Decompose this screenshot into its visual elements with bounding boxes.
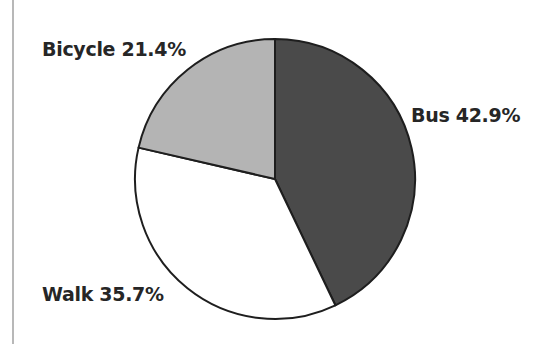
pie-slices [135,39,415,319]
label-bicycle: Bicycle 21.4% [42,38,186,60]
label-walk: Walk 35.7% [42,283,164,305]
label-bus: Bus 42.9% [411,104,520,126]
